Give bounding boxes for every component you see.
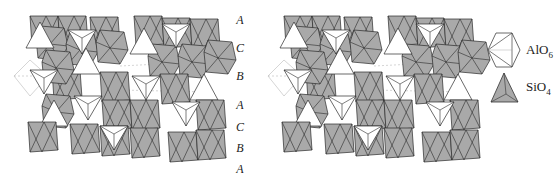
- structure-left-view: [14, 16, 236, 162]
- legend-label-alo6: AlO6: [526, 42, 553, 60]
- layer-label-4: A: [233, 98, 247, 113]
- layer-label-1: A: [233, 13, 247, 28]
- tetrahedron-icon: [491, 73, 518, 102]
- layer-label-3: B: [233, 69, 247, 84]
- octahedron-icon: [488, 33, 520, 67]
- layer-label-7: A: [233, 162, 247, 177]
- legend-label-sio4: SiO4: [526, 79, 551, 97]
- layer-label-5: C: [233, 120, 247, 135]
- layer-label-6: B: [233, 141, 247, 156]
- structure-right-view: [268, 16, 490, 162]
- structure-stereo-pair: [0, 0, 560, 179]
- layer-label-2: C: [233, 41, 247, 56]
